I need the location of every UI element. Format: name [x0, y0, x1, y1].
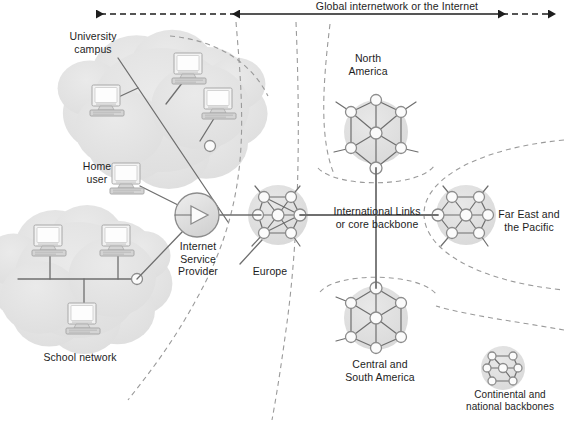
campus-gateway-node [205, 141, 216, 152]
cluster-central-south-america-node-7 [396, 332, 407, 343]
cluster-central-south-america [336, 282, 408, 354]
cluster-far-east-node-5 [474, 192, 485, 203]
cluster-central-south-america-node-6 [346, 332, 357, 343]
cluster-continental-backbones-node-7 [509, 377, 517, 385]
cluster-north-america-node-4 [346, 107, 357, 118]
europe-label: Europe [242, 265, 298, 278]
isp-layer [175, 193, 219, 237]
cluster-north-america-node-3 [371, 95, 382, 106]
school-network-label: School network [25, 351, 135, 364]
home-user-label: Home user [72, 160, 122, 185]
computer-school-1 [32, 225, 66, 256]
cluster-far-east-node-2 [460, 209, 472, 221]
cluster-north-america-node-5 [396, 107, 407, 118]
computer-university-3 [202, 88, 236, 119]
computer-university-1 [90, 85, 124, 116]
cluster-continental-backbones-node-6 [488, 377, 496, 385]
computer-school-2 [100, 225, 134, 256]
university-campus-label: University campus [53, 30, 133, 55]
dashed-divider-lower-right [436, 306, 564, 330]
cluster-north-america-node-2 [370, 127, 382, 139]
computer-school-3 [66, 303, 100, 334]
cluster-far-east-node-6 [447, 228, 458, 239]
cluster-central-south-america-node-3 [371, 343, 382, 354]
central-south-america-label: Central and South America [336, 358, 424, 383]
cluster-europe-node-2 [272, 209, 284, 221]
north-america-label: North America [336, 52, 400, 77]
international-links-label: International Links or core backbone [325, 205, 429, 230]
cluster-far-east [432, 185, 496, 246]
cluster-far-east-node-4 [447, 192, 458, 203]
cluster-north-america-node-6 [346, 143, 357, 154]
dashed-divider-na-left [324, 24, 334, 174]
cluster-central-south-america-node-2 [370, 312, 382, 324]
clusters-layer [248, 95, 525, 391]
home-user-link [140, 186, 180, 206]
europe-label-leader [240, 240, 262, 264]
cluster-europe-node-5 [286, 192, 297, 203]
far-east-label: Far East and the Pacific [493, 208, 564, 233]
cluster-europe-node-7 [286, 228, 297, 239]
computer-university-2 [172, 53, 206, 84]
cluster-continental-backbones-node-4 [488, 352, 496, 360]
cluster-far-east-node-3 [483, 210, 494, 221]
cluster-europe-node-6 [259, 228, 270, 239]
cluster-north-america-node-7 [396, 143, 407, 154]
cluster-continental-backbones-node-2 [499, 364, 508, 373]
cluster-continental-backbones-node-1 [483, 364, 491, 372]
cluster-north-america [334, 95, 418, 175]
cluster-europe-node-4 [259, 192, 270, 203]
cluster-central-south-america-node-4 [346, 298, 357, 309]
network-diagram: Global internetwork or the InternetUnive… [0, 0, 564, 424]
cluster-central-south-america-node-5 [396, 298, 407, 309]
cluster-continental-backbones-node-3 [514, 364, 522, 372]
cluster-continental-backbones [481, 346, 525, 390]
isp-label: Internet Service Provider [163, 240, 233, 278]
cluster-continental-backbones-node-5 [509, 352, 517, 360]
continental-backbones-label: Continental and national backbones [456, 389, 564, 413]
cluster-far-east-node-7 [474, 228, 485, 239]
global-internet-label: Global internetwork or the Internet [282, 0, 512, 13]
